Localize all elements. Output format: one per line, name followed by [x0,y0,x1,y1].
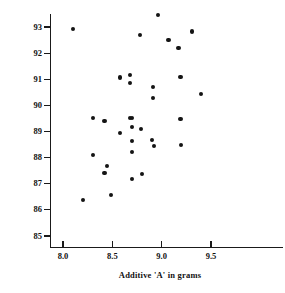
scatter-point [138,33,142,37]
scatter-point [102,119,106,123]
scatter-point [130,177,134,181]
scatter-chart-figure: Yield in % 858687888990919293 8.08.59.09… [0,0,285,293]
scatter-point [130,150,134,154]
scatter-point [130,116,134,120]
scatter-point [190,29,194,33]
scatter-points-layer [0,0,285,293]
scatter-point [151,96,155,100]
scatter-point [130,139,134,143]
scatter-point [176,46,180,50]
scatter-point [128,73,132,77]
scatter-point [118,75,122,79]
scatter-point [178,75,182,79]
scatter-point [128,81,132,85]
scatter-point [102,171,106,175]
scatter-point [91,153,95,157]
scatter-point [71,27,75,31]
scatter-point [150,138,154,142]
scatter-point [166,38,170,42]
scatter-point [140,172,144,176]
x-axis-title: Additive 'A' in grams [45,270,275,280]
scatter-point [91,116,95,120]
scatter-point [156,13,160,17]
scatter-point [118,131,122,135]
scatter-point [152,144,156,148]
scatter-point [130,125,134,129]
scatter-point [139,127,143,131]
scatter-point [151,85,155,89]
scatter-point [81,198,85,202]
scatter-point [179,143,183,147]
scatter-point [105,164,109,168]
scatter-point [199,92,203,96]
scatter-point [178,117,182,121]
scatter-point [109,193,113,197]
